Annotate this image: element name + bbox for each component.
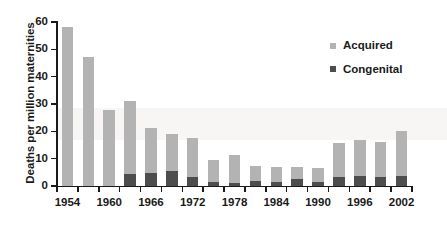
bar-segment-congenital: [166, 171, 178, 186]
y-axis-tick-label: 50: [4, 43, 48, 55]
y-axis-tick-label: 10: [4, 153, 48, 165]
y-axis-tick-label: 20: [4, 125, 48, 137]
bar-segment-acquired: [250, 166, 262, 181]
x-axis-tick: [202, 187, 204, 192]
bar-segment-congenital: [124, 174, 136, 186]
bar-1969: [166, 134, 178, 186]
bar-segment-acquired: [145, 128, 157, 173]
bar-segment-congenital: [229, 183, 241, 186]
bar-1999: [375, 142, 387, 186]
x-axis-tick: [349, 187, 351, 192]
legend-label: Congenital: [343, 64, 402, 76]
bar-segment-acquired: [166, 134, 178, 171]
y-axis-tick-label: 0: [4, 180, 48, 192]
bar-1963: [124, 101, 136, 186]
x-axis-tick: [307, 187, 309, 192]
bar-1996: [354, 140, 366, 186]
bar-1981: [250, 166, 262, 186]
bar-1975: [208, 160, 220, 186]
bar-segment-congenital: [208, 182, 220, 186]
x-axis-tick: [77, 187, 79, 192]
bar-1960: [103, 110, 115, 186]
bar-1957: [83, 57, 95, 186]
bar-segment-acquired: [229, 155, 241, 183]
bar-segment-acquired: [62, 27, 74, 186]
bar-segment-congenital: [375, 177, 387, 186]
bar-segment-acquired: [208, 160, 220, 182]
bar-1978: [229, 155, 241, 186]
bar-segment-acquired: [291, 167, 303, 179]
chart-figure: Deaths per million maternities 010203040…: [0, 0, 447, 231]
bar-segment-acquired: [187, 138, 199, 177]
bar-segment-acquired: [83, 57, 95, 186]
bar-segment-acquired: [312, 168, 324, 182]
x-axis-tick-label: 2002: [372, 197, 432, 209]
bar-segment-congenital: [250, 181, 262, 186]
bar-segment-acquired: [354, 140, 366, 176]
bar-segment-acquired: [333, 143, 345, 176]
bar-1966: [145, 128, 157, 186]
bar-segment-congenital: [354, 176, 366, 186]
bar-segment-congenital: [145, 173, 157, 186]
legend-label: Acquired: [343, 40, 393, 52]
legend-item: Congenital: [330, 64, 402, 76]
y-axis-tick-label: 40: [4, 71, 48, 83]
x-axis-tick: [369, 187, 371, 192]
bar-1993: [333, 143, 345, 186]
bar-segment-acquired: [124, 101, 136, 174]
bar-segment-congenital: [271, 182, 283, 186]
x-axis-tick: [161, 187, 163, 192]
legend-swatch-icon: [330, 43, 336, 49]
x-axis-tick: [244, 187, 246, 192]
legend-swatch-icon: [330, 66, 336, 72]
bar-1987: [291, 167, 303, 186]
x-axis-tick: [223, 187, 225, 192]
bar-segment-congenital: [333, 177, 345, 186]
x-axis-tick: [182, 187, 184, 192]
x-axis-tick: [56, 187, 58, 192]
x-axis-tick: [140, 187, 142, 192]
y-axis-tick-label: 60: [4, 16, 48, 28]
legend-item: Acquired: [330, 40, 402, 52]
bar-segment-acquired: [375, 142, 387, 177]
bar-1984: [271, 167, 283, 186]
x-axis-tick: [286, 187, 288, 192]
x-axis-tick: [265, 187, 267, 192]
x-axis-tick: [98, 187, 100, 192]
bar-segment-congenital: [396, 176, 408, 186]
chart-legend: AcquiredCongenital: [330, 40, 402, 87]
bar-segment-congenital: [312, 182, 324, 186]
bar-segment-acquired: [271, 167, 283, 182]
bar-segment-acquired: [396, 131, 408, 176]
x-axis-tick: [119, 187, 121, 192]
bar-1990: [312, 168, 324, 186]
bar-segment-congenital: [291, 179, 303, 186]
bar-segment-congenital: [187, 177, 199, 186]
x-axis-tick: [411, 187, 413, 192]
bar-1954: [62, 27, 74, 186]
bar-2002: [396, 131, 408, 186]
x-axis-tick: [328, 187, 330, 192]
bar-1972: [187, 138, 199, 186]
x-axis-tick: [390, 187, 392, 192]
y-axis-tick-label: 30: [4, 98, 48, 110]
bar-segment-acquired: [103, 110, 115, 186]
